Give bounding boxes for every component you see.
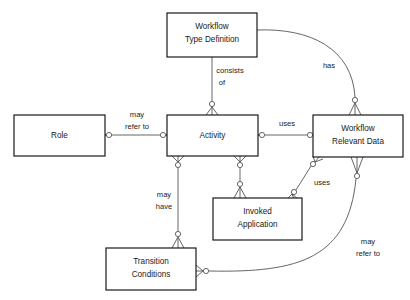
rel-label-may-refer-to-transition-line1: may (361, 237, 376, 246)
rel-label-uses-data-line1: uses (279, 119, 295, 128)
entity-transition-conditions[interactable]: Transition Conditions (106, 248, 196, 290)
er-diagram-canvas: Workflow Type Definition Role Activity W… (0, 0, 410, 300)
entity-label-role-line1: Role (51, 131, 68, 140)
entity-label-workflow-type-definition-line2: Type Definition (185, 35, 240, 44)
entity-role[interactable]: Role (14, 115, 105, 156)
connector-has (257, 30, 361, 115)
rel-label-uses-invoked-application-line1: uses (314, 178, 330, 187)
entity-invoked-application[interactable]: Invoked Application (213, 198, 302, 240)
entity-label-activity-line1: Activity (200, 131, 227, 140)
entity-workflow-type-definition[interactable]: Workflow Type Definition (167, 13, 257, 57)
rel-label-may-have-line1: may (157, 190, 172, 199)
connector-activity-invoked-application (234, 156, 246, 198)
relationship-label-may-refer-to-transition: may refer to (356, 237, 380, 258)
rel-label-may-refer-to-transition-line2: refer to (356, 249, 380, 258)
relationship-label-may-refer-to-role: may refer to (125, 110, 149, 131)
connector-may-have (172, 156, 184, 248)
er-diagram-svg: Workflow Type Definition Role Activity W… (0, 0, 410, 300)
entity-label-transition-conditions-line2: Conditions (132, 270, 171, 279)
rel-label-consists-of-line2: of (219, 78, 226, 87)
entity-box-transition-conditions[interactable] (106, 248, 196, 290)
entity-label-workflow-relevant-data-line1: Workflow (341, 124, 375, 133)
rel-label-may-refer-to-role-line1: may (130, 110, 145, 119)
rel-label-may-refer-to-role-line2: refer to (125, 122, 149, 131)
entity-label-workflow-relevant-data-line2: Relevant Data (332, 137, 384, 146)
relationship-label-consists-of: consists of (216, 66, 244, 87)
relationship-label-may-have: may have (156, 190, 172, 211)
relationship-label-uses-data: uses (279, 119, 295, 128)
entity-box-invoked-application[interactable] (213, 198, 302, 240)
relationship-label-has: has (323, 61, 335, 70)
entity-activity[interactable]: Activity (167, 115, 258, 156)
entity-box-workflow-relevant-data[interactable] (313, 115, 403, 157)
entity-workflow-relevant-data[interactable]: Workflow Relevant Data (313, 115, 403, 157)
entity-label-workflow-type-definition-line1: Workflow (195, 22, 229, 31)
relationship-label-uses-invoked-application: uses (314, 178, 330, 187)
rel-label-may-have-line2: have (156, 202, 172, 211)
connector-uses-data (251, 129, 321, 141)
entity-label-transition-conditions-line1: Transition (133, 257, 169, 266)
entity-label-invoked-application-line2: Application (237, 220, 278, 229)
entity-label-invoked-application-line1: Invoked (243, 207, 272, 216)
rel-label-consists-of-line1: consists (216, 66, 244, 75)
rel-label-has-line1: has (323, 61, 335, 70)
